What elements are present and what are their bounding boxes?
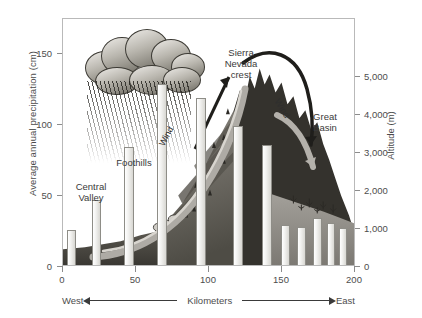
precip-bar [233,126,243,265]
y-tick-label-right: 4,000 [364,109,388,120]
label-central-valley: Central Valley [62,181,123,203]
y-tick-label-left: 100 [18,119,52,130]
plot-area: Central Valley Foothills Sierra Nevada c… [62,18,355,266]
y-tick-right [355,76,360,77]
precip-bar [327,223,335,265]
precip-bar [196,98,206,265]
scene: Central Valley Foothills Sierra Nevada c… [63,19,354,265]
y-tick-label-right: 3,000 [364,147,388,158]
y-tick-right [355,114,360,115]
y-tick-right [355,190,360,191]
x-axis-label-east: East [336,295,355,306]
y-tick-label-left: 0 [18,261,52,272]
x-tick [135,266,136,272]
figure-orographic-precipitation: Average annual precipitation (cm) Altitu… [0,0,422,318]
east-arrow-icon [236,295,336,305]
y-tick-label-right: 1,000 [364,223,388,234]
precip-bar [262,145,272,265]
x-tick [354,266,355,272]
label-foothills: Foothills [105,157,163,168]
x-axis-label-west: West [62,295,83,306]
precip-bar [339,228,347,265]
y-tick-right [355,266,360,267]
y-tick-label-right: 5,000 [364,71,388,82]
x-axis-title: Kilometers [183,295,236,306]
y-tick-left [57,124,62,125]
precip-bar [157,84,167,265]
label-great-basin: Great Basin [301,111,349,133]
y-tick-right [355,228,360,229]
x-tick [281,266,282,272]
wind-arrow-leeward [63,19,355,266]
y-tick-left [57,53,62,54]
label-sierra-nevada-crest: Sierra Nevada crest [213,47,269,80]
x-tick-label: 100 [188,274,228,285]
precip-bar [297,227,306,265]
x-axis-caption: West Kilometers East [62,292,355,308]
y-tick-label-left: 50 [18,190,52,201]
y-tick-label-right: 0 [364,261,369,272]
y-tick-label-left: 150 [18,48,52,59]
precip-bar [313,218,322,265]
y-tick-label-right: 2,000 [364,185,388,196]
x-tick [208,266,209,272]
x-tick-label: 150 [261,274,301,285]
precip-bar [92,200,101,265]
x-tick [62,266,63,272]
precip-bar [67,230,76,265]
y-axis-title-right: Altitude (m) [385,76,396,196]
y-tick-right [355,152,360,153]
west-arrow-icon [83,295,183,305]
x-tick-label: 200 [334,274,374,285]
x-tick-label: 50 [115,274,155,285]
precip-bar [281,225,290,265]
y-tick-left [57,195,62,196]
x-tick-label: 0 [42,274,82,285]
